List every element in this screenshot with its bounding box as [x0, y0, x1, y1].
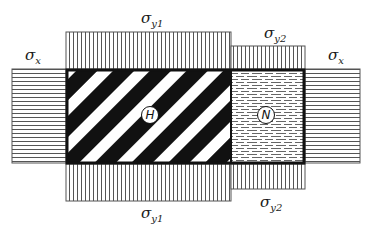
sigma-y1-top-block: [66, 32, 231, 69]
sigma-symbol: σ: [260, 193, 270, 211]
sigma-x-left-block: [12, 69, 66, 163]
sigma-y1-bottom-block: [66, 164, 231, 201]
sigma-symbol: σ: [264, 24, 274, 42]
sigma-symbol: σ: [25, 46, 35, 64]
stress-diagram: [0, 0, 371, 229]
subscript: x: [35, 55, 41, 66]
sigma-symbol: σ: [141, 9, 151, 27]
subscript: x: [338, 55, 344, 66]
region-n-label: N: [257, 106, 275, 124]
label-sigma-y1-bottom: σy1: [141, 205, 163, 221]
label-sigma-y2-bottom: σy2: [260, 194, 282, 210]
subscript: y1: [151, 18, 163, 29]
subscript: y1: [151, 213, 163, 224]
sigma-x-right-block: [305, 69, 360, 163]
region-h-label: H: [141, 106, 159, 124]
label-sigma-x-left: σx: [25, 47, 41, 63]
label-sigma-y2-top: σy2: [264, 25, 286, 41]
sigma-symbol: σ: [141, 204, 151, 222]
subscript: y2: [270, 202, 282, 213]
sigma-y2-bottom-block: [231, 164, 305, 189]
label-sigma-x-right: σx: [328, 47, 344, 63]
subscript: y2: [274, 33, 286, 44]
sigma-y2-top-block: [231, 46, 305, 69]
sigma-symbol: σ: [328, 46, 338, 64]
label-sigma-y1-top: σy1: [141, 10, 163, 26]
